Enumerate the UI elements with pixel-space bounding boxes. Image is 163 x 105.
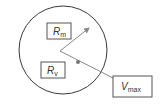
boundary-circle — [19, 6, 107, 94]
vmax-sub: max — [128, 86, 142, 93]
rm-main: R — [53, 26, 60, 37]
rv-sub: v — [54, 70, 58, 77]
point-marker — [76, 60, 80, 64]
rv-label-box: Rv — [41, 62, 65, 78]
rm-label-box: Rm — [47, 23, 71, 39]
vmax-label-box: Vmax — [113, 76, 152, 97]
orbit-diagram: Rm Rv Vmax — [0, 0, 163, 105]
rv-main: R — [47, 65, 54, 76]
rm-sub: m — [60, 31, 66, 38]
